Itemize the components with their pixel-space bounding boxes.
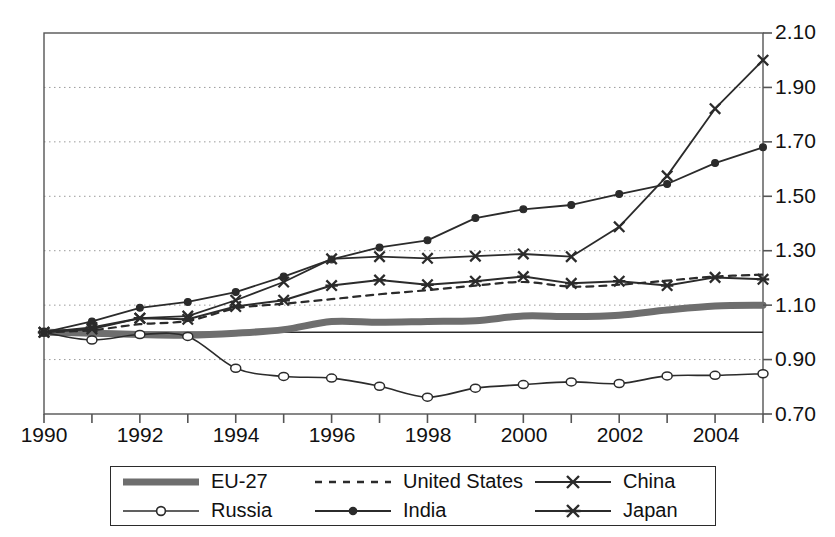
- series-eu-27: [44, 305, 763, 335]
- y-tick-label: 1.10: [775, 293, 816, 317]
- y-tick-label: 1.50: [775, 184, 816, 208]
- legend-label: India: [403, 499, 446, 522]
- y-tick-label: 1.90: [775, 75, 816, 99]
- x-tick-label: 1996: [292, 423, 372, 447]
- series-lines: [38, 55, 769, 401]
- legend-label: EU-27: [211, 470, 268, 493]
- legend-item-japan: Japan: [523, 496, 715, 525]
- legend-item-russia: Russia: [111, 496, 303, 525]
- legend-sample-russia-icon: [119, 500, 203, 522]
- y-tick-label: 2.10: [775, 20, 816, 44]
- series-india: [41, 144, 767, 336]
- x-tick-label: 1998: [388, 423, 468, 447]
- chart-plot-area: [0, 0, 835, 537]
- legend-sample-united-states-icon: [311, 471, 395, 493]
- x-tick-label: 1992: [100, 423, 180, 447]
- axis-frame: [44, 33, 763, 414]
- legend-label: Japan: [623, 499, 678, 522]
- series-russia: [39, 328, 768, 401]
- legend-label: Russia: [211, 499, 272, 522]
- x-tick-label: 2004: [676, 423, 756, 447]
- legend-item-united-states: United States: [303, 467, 523, 496]
- series-china: [39, 55, 768, 338]
- legend-label: China: [623, 470, 675, 493]
- y-tick-label: 1.30: [775, 238, 816, 262]
- chart-figure: 2.10 1.90 1.70 1.50 1.30 1.10 0.90 0.70 …: [0, 0, 835, 537]
- legend-sample-japan-icon: [531, 500, 615, 522]
- legend-sample-eu-27-icon: [119, 471, 203, 493]
- y-tick-label: 1.70: [775, 129, 816, 153]
- legend-item-china: China: [523, 467, 715, 496]
- y-tick-label: 0.70: [775, 402, 816, 426]
- x-tick-label: 2000: [484, 423, 564, 447]
- chart-legend: EU-27 United States China: [110, 466, 716, 526]
- legend-label: United States: [403, 470, 523, 493]
- x-tick-label: 1994: [196, 423, 276, 447]
- legend-sample-india-icon: [311, 500, 395, 522]
- series-japan: [38, 271, 769, 337]
- legend-sample-china-icon: [531, 471, 615, 493]
- x-tick-label: 1990: [4, 423, 84, 447]
- legend-item-eu-27: EU-27: [111, 467, 303, 496]
- x-tick-label: 2002: [580, 423, 660, 447]
- axis-ticks: [44, 33, 772, 423]
- y-tick-label: 0.90: [775, 347, 816, 371]
- legend-item-india: India: [303, 496, 523, 525]
